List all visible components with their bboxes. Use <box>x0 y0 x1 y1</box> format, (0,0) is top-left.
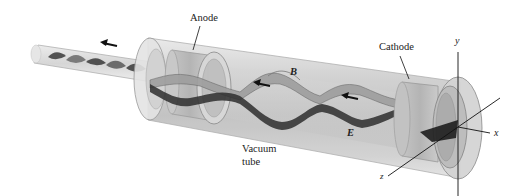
magnetic-field-label: B <box>290 67 297 78</box>
z-axis-label: z <box>380 172 384 181</box>
electric-field-label: E <box>347 128 354 139</box>
vacuum-tube-illustration <box>0 0 521 196</box>
diagram-canvas: Anode Cathode Vacuum tube B E y x z <box>0 0 521 196</box>
vacuum-label-line1: Vacuum <box>242 144 276 155</box>
vacuum-label-line2: tube <box>242 157 260 168</box>
cathode-label: Cathode <box>379 42 414 53</box>
y-axis-label: y <box>455 36 459 46</box>
anode-label: Anode <box>190 13 218 24</box>
propagation-arrow-left-1 <box>100 39 117 46</box>
x-axis-label: x <box>494 128 498 138</box>
